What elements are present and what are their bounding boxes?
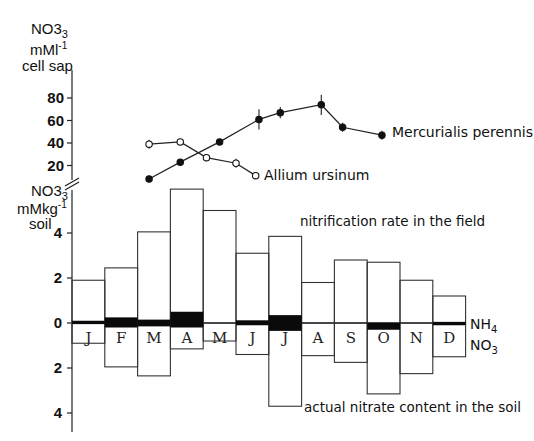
- nitrification-bar: [203, 211, 236, 324]
- nitrification-bar: [433, 296, 466, 323]
- upper-tick-label: 60: [47, 112, 64, 129]
- annotation-nitrification: nitrification rate in the field: [300, 213, 485, 229]
- month-label: J: [83, 329, 91, 347]
- data-point: [379, 132, 385, 138]
- label-no3: NO3: [470, 337, 498, 356]
- upper-tick-label: 20: [47, 157, 64, 174]
- data-point: [177, 159, 183, 165]
- data-point: [339, 124, 345, 130]
- data-point: [252, 172, 258, 178]
- nitrification-bar: [170, 189, 203, 323]
- nh4-band: [236, 320, 269, 325]
- upper-axis-title-line3: cell sap: [22, 57, 73, 74]
- legend-mercurialis: Mercurialis perennis: [392, 124, 533, 140]
- lower-tick-label: 4: [54, 224, 63, 241]
- nitrate-content-bars: [72, 323, 466, 406]
- nitrification-bar: [72, 280, 105, 323]
- data-point: [146, 176, 152, 182]
- lower-tick-label: 4: [54, 404, 63, 421]
- annotation-nitrate-content: actual nitrate content in the soil: [304, 399, 521, 415]
- nitrification-bar: [302, 283, 335, 324]
- data-point: [177, 139, 183, 145]
- label-nh4: NH4: [470, 316, 497, 335]
- lower-y-ticks: 02424: [54, 224, 72, 421]
- lower-axis-title-line3: soil: [29, 215, 52, 232]
- nitrification-bar: [269, 236, 302, 323]
- lower-tick-label: 2: [54, 269, 62, 286]
- data-point: [277, 109, 283, 115]
- nitrification-bar: [367, 262, 400, 323]
- nitrification-bar: [334, 260, 367, 323]
- data-point: [216, 139, 222, 145]
- data-point: [256, 116, 262, 122]
- upper-tick-label: 80: [47, 89, 64, 106]
- month-label: O: [377, 329, 389, 347]
- month-label: F: [116, 329, 126, 347]
- month-label: M: [146, 329, 161, 347]
- month-label: J: [247, 329, 255, 347]
- month-label: M: [212, 329, 227, 347]
- nitrification-bar: [105, 268, 138, 323]
- lower-tick-label: 0: [54, 314, 62, 331]
- upper-tick-label: 40: [47, 134, 64, 151]
- data-point: [318, 102, 324, 108]
- nh4-band: [105, 317, 138, 327]
- nh4-band: [433, 322, 466, 325]
- month-label: S: [346, 329, 356, 347]
- chart: NO33 mMl-1 cell sap NO33 mMkg-1 soil 204…: [0, 0, 534, 441]
- data-point: [146, 141, 152, 147]
- upper-axis-title-line1: NO33: [31, 20, 68, 40]
- legend-allium: Allium ursinum: [264, 167, 369, 183]
- nitrification-bar: [138, 232, 171, 323]
- month-label: D: [443, 329, 455, 347]
- upper-y-ticks: 20406080: [47, 89, 72, 174]
- nitrification-bars: [72, 189, 466, 323]
- nitrification-bar: [236, 253, 269, 323]
- month-label: A: [312, 329, 324, 347]
- month-label: A: [180, 329, 192, 347]
- upper-axis-title: NO33 mMl-1 cell sap: [22, 20, 73, 74]
- month-label: J: [280, 329, 288, 347]
- nh4-band: [170, 312, 203, 328]
- upper-axis-title-line2: mMl-1: [30, 40, 68, 58]
- data-point: [233, 160, 239, 166]
- nh4-band: [138, 320, 171, 327]
- nitrification-bar: [400, 280, 433, 323]
- lower-tick-label: 2: [54, 359, 62, 376]
- nh4-band: [72, 321, 105, 324]
- data-point: [203, 154, 209, 160]
- month-label: N: [410, 329, 423, 347]
